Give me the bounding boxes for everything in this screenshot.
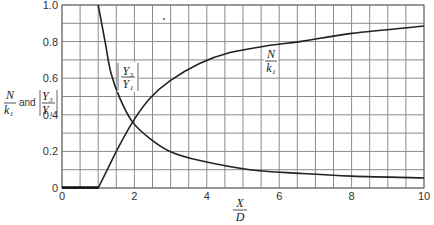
curve2-label-numerator: Y₃ <box>123 64 134 78</box>
curve-label-y3-y1: Y₃ Y₁ <box>117 62 139 92</box>
y-tick-label: 0 <box>52 182 58 194</box>
y-label-abs-numerator: Y₃ <box>42 89 53 103</box>
x-tick-label: 8 <box>349 190 355 202</box>
y-label-and: and <box>19 97 36 108</box>
x-tick-label: 10 <box>418 190 430 202</box>
y-tick-label: 0.6 <box>43 72 58 84</box>
y-tick-label: 0.2 <box>43 145 58 157</box>
x-label-numerator: X <box>235 196 244 210</box>
grid-lines <box>62 5 424 188</box>
y-axis-label: N k₁ and Y₃ Y₁ <box>4 88 57 117</box>
x-axis-ticks: 0246810 <box>59 190 430 202</box>
x-tick-label: 0 <box>59 190 65 202</box>
curve1-label-numerator: N <box>266 47 276 61</box>
y-tick-label: 0.8 <box>43 36 58 48</box>
curve-label-n-k1: N k₁ <box>264 47 278 75</box>
y-tick-label: 1.0 <box>43 0 58 11</box>
x-tick-label: 6 <box>276 190 282 202</box>
y-label-denominator: k₁ <box>4 103 14 117</box>
x-label-denominator: D <box>235 210 245 224</box>
x-axis-label: X D <box>233 196 247 224</box>
y-label-numerator: N <box>5 88 15 102</box>
chart: 0246810 00.20.40.60.81.0 N k₁ and Y₃ Y₁ … <box>0 0 434 225</box>
x-tick-label: 4 <box>204 190 210 202</box>
speck <box>163 18 165 20</box>
curve1-label-denominator: k₁ <box>266 61 276 75</box>
y-label-abs-denominator: Y₁ <box>42 103 53 117</box>
x-tick-label: 2 <box>131 190 137 202</box>
curve2-label-denominator: Y₁ <box>123 77 134 91</box>
